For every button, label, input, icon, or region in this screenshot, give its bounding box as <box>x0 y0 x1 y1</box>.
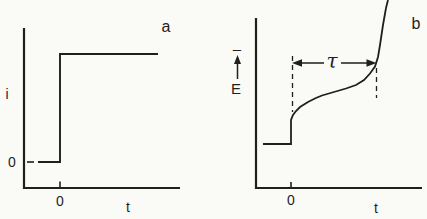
panel-b-ylabel-minus-sign: – <box>233 41 241 56</box>
panel-a-xtick-zero-label: 0 <box>56 194 64 208</box>
tau-label: τ <box>326 51 337 71</box>
panel-a-corner-label: a <box>162 19 171 35</box>
panel-a-axes <box>24 28 180 188</box>
panel-b-corner-label: b <box>412 16 421 32</box>
panel-a-xlabel: t <box>126 200 130 214</box>
figure-strokes <box>0 0 427 219</box>
panel-b-axes <box>256 18 422 188</box>
panel-b-xtick-zero-label: 0 <box>287 193 295 207</box>
panel-a-ytick-zero-label: 0 <box>8 155 16 169</box>
panel-a-ylabel: i <box>5 87 8 101</box>
tau-arrow-left-head-icon <box>292 59 302 67</box>
panel-b-xlabel: t <box>374 201 378 215</box>
panel-b-ylabel: E <box>231 81 241 96</box>
figure-chronopotentiometry: i 0 0 t a – E 0 t b τ <box>0 0 427 219</box>
panel-a-curve <box>38 54 158 162</box>
